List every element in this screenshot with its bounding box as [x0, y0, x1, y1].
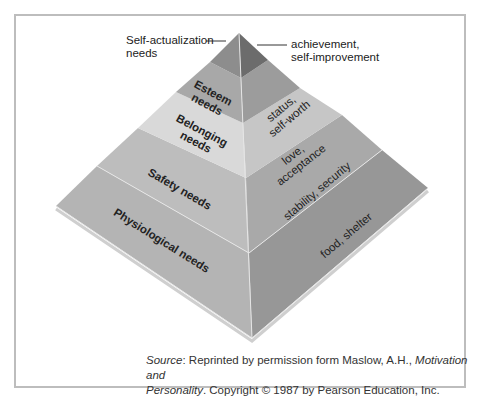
callout-text: self-improvement [291, 51, 379, 64]
callout-text: Self-actualization [126, 34, 214, 47]
source-citation: Source: Reprinted by permission form Mas… [146, 353, 479, 398]
source-text: . Copyright © 1987 by Pearson Education,… [203, 384, 440, 396]
callout-text: achievement, [291, 38, 379, 51]
source-title: Personality [146, 384, 203, 396]
source-text: : Reprinted by permission form Maslow, A… [182, 354, 415, 366]
pyramid-diagram [0, 0, 479, 408]
callout-text: needs [126, 47, 214, 60]
achievement-callout: achievement, self-improvement [291, 38, 379, 64]
source-prefix: Source [146, 354, 182, 366]
self-actualization-callout: Self-actualization needs [126, 34, 214, 60]
